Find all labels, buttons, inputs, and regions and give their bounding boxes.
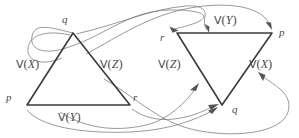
vee-glyph: V <box>100 58 108 71</box>
left-edge-label-VZ: V(Z) <box>100 58 123 71</box>
vee-glyph: V <box>214 14 222 27</box>
vee-glyph: V <box>58 111 66 124</box>
left-edge-label-VX: V(X) <box>16 58 39 71</box>
left-vertex-label-p: p <box>6 92 12 103</box>
map-q-edge-to-p <box>86 5 272 54</box>
right-vertex-label-p: p <box>279 27 285 38</box>
figure-canvas: p q r V(X) V(Z) V(Y) r p q V(Y) V(Z) V(X… <box>0 0 299 138</box>
paren-close: ) <box>118 57 122 71</box>
right-edge-label-VX: V(X) <box>249 58 272 71</box>
variable-glyph: X <box>261 57 268 71</box>
map-q-to-top-edge <box>76 6 210 34</box>
left-edge-label-VY: V(Y) <box>58 111 81 124</box>
variable-glyph: X <box>28 57 35 71</box>
vee-glyph: V <box>158 58 166 71</box>
map-q-to-r <box>32 10 204 51</box>
vee-glyph: V <box>249 58 257 71</box>
right-vertex-label-q: q <box>232 104 238 115</box>
vee-glyph: V <box>16 58 24 71</box>
map-right-edge-to-right-edge <box>104 72 289 134</box>
left-vertex-label-r: r <box>133 92 137 103</box>
paren-close: ) <box>76 110 80 124</box>
left-vertex-label-q: q <box>62 14 68 25</box>
paren-close: ) <box>176 57 180 71</box>
right-edge-label-VY: V(Y) <box>214 14 237 27</box>
paren-close: ) <box>232 13 236 27</box>
right-vertex-label-r: r <box>160 32 164 43</box>
paren-close: ) <box>268 57 272 71</box>
right-edge-label-VZ: V(Z) <box>158 58 181 71</box>
paren-close: ) <box>35 57 39 71</box>
